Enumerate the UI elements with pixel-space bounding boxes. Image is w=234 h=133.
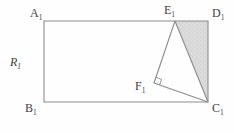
geometry-diagram: A1 D1 E1 B1 C1 F1 R1 (0, 0, 234, 133)
label-B1: B1 (25, 101, 37, 117)
label-F1: F1 (135, 79, 146, 95)
label-C1: C1 (212, 101, 224, 117)
label-D1: D1 (212, 6, 225, 22)
label-R1: R1 (9, 55, 21, 71)
label-E1: E1 (164, 3, 175, 19)
label-A1: A1 (30, 6, 43, 22)
figure-canvas: A1 D1 E1 B1 C1 F1 R1 (0, 0, 234, 133)
